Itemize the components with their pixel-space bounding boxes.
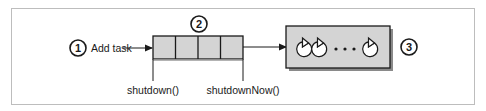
executor-diagram: 1 Add task 2 shutdown() shutdownNow()	[0, 0, 486, 111]
worker-pool	[286, 26, 393, 71]
callout-1: 1	[70, 40, 86, 56]
callout-2-number: 2	[196, 18, 202, 30]
callout-3: 3	[401, 39, 417, 55]
shutdown-now-label: shutdownNow()	[207, 84, 280, 96]
callout-1-number: 1	[75, 42, 81, 54]
callout-2: 2	[191, 16, 207, 32]
task-queue	[153, 36, 243, 60]
shutdown-label: shutdown()	[127, 84, 179, 96]
callout-3-number: 3	[406, 41, 412, 53]
